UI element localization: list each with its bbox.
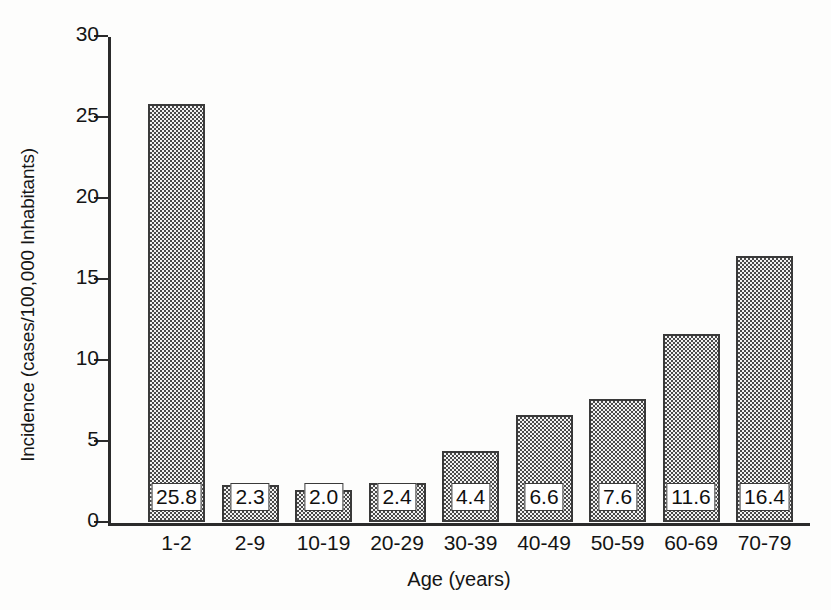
y-axis-line <box>108 37 111 526</box>
y-axis-tick-label: 5 <box>87 428 99 450</box>
bar-chart-figure: Incidence (cases/100,000 Inhabitants) 05… <box>0 0 831 610</box>
bar: 11.6 <box>663 334 720 522</box>
bar-value-label: 6.6 <box>524 483 563 511</box>
x-axis-line <box>108 523 810 526</box>
bar: 25.8 <box>148 104 205 522</box>
bar: 2.0 <box>295 490 352 522</box>
x-axis-tick-label: 20-29 <box>370 531 424 555</box>
y-axis-tick: 5 <box>108 440 122 442</box>
x-axis-tick-label: 2-9 <box>235 531 265 555</box>
bar-value-label: 4.4 <box>451 483 490 511</box>
y-axis-title: Incidence (cases/100,000 Inhabitants) <box>0 0 56 610</box>
y-axis-tick-label: 0 <box>87 509 99 531</box>
bar: 16.4 <box>736 256 793 522</box>
bar-value-label: 2.4 <box>377 483 416 511</box>
x-axis-tick-label: 40-49 <box>517 531 571 555</box>
y-axis-tick: 15 <box>108 278 122 280</box>
bar: 4.4 <box>442 451 499 522</box>
bar-value-label: 2.0 <box>304 483 343 511</box>
bar-value-label: 2.3 <box>230 483 269 511</box>
x-axis-tick-label: 50-59 <box>591 531 645 555</box>
bar: 2.3 <box>222 485 279 522</box>
y-axis-tick-label: 20 <box>76 185 99 207</box>
bar-value-label: 25.8 <box>151 483 202 511</box>
x-axis-tick-label: 70-79 <box>738 531 792 555</box>
x-axis-tick-label: 30-39 <box>444 531 498 555</box>
y-axis-tick-label: 25 <box>76 104 99 126</box>
bar-value-label: 16.4 <box>739 483 790 511</box>
bar: 2.4 <box>369 483 426 522</box>
x-axis-tick-label: 1-2 <box>161 531 191 555</box>
y-axis-tick: 25 <box>108 116 122 118</box>
bar: 6.6 <box>516 415 573 522</box>
bar: 7.6 <box>589 399 646 522</box>
y-axis-tick: 20 <box>108 197 122 199</box>
y-axis-tick-label: 10 <box>76 347 99 369</box>
bar-value-label: 7.6 <box>598 483 637 511</box>
y-axis-tick: 10 <box>108 359 122 361</box>
x-axis-tick-label: 60-69 <box>664 531 718 555</box>
x-axis-title: Age (years) <box>108 568 810 591</box>
y-axis-tick: 0 <box>108 521 122 523</box>
bar-value-label: 11.6 <box>666 483 715 511</box>
plot-area: 051015202530 25.82.32.02.44.46.67.611.61… <box>108 37 810 525</box>
y-axis-tick: 30 <box>108 35 122 37</box>
y-axis-tick-label: 15 <box>76 266 99 288</box>
x-axis-tick-label: 10-19 <box>297 531 351 555</box>
y-axis-tick-label: 30 <box>76 23 99 45</box>
